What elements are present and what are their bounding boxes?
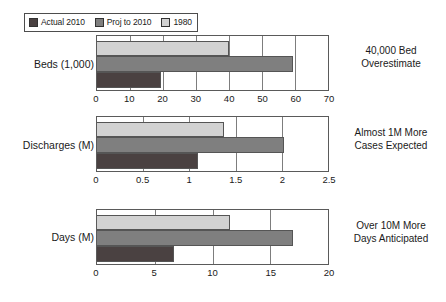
x-axis-tick-label: 2.5: [322, 174, 335, 185]
legend-label-1980: 1980: [173, 18, 192, 27]
annotation-discharges-line-1: Almost 1M More: [338, 126, 444, 139]
legend-swatch-proj-to-2010: [95, 18, 104, 27]
x-axis-ticks-days: 05101520: [96, 267, 329, 281]
bar-proj-to-2010-discharges: [97, 137, 284, 153]
legend-entry-actual-2010: Actual 2010: [29, 18, 85, 27]
bar-proj-to-2010-beds: [97, 56, 293, 72]
annotation-beds: 40,000 Bed Overestimate: [338, 44, 444, 70]
x-axis-tick-label: 30: [191, 93, 202, 104]
chart-panel-days: Days (M) 05101520 Over 10M More Days Ant…: [0, 205, 446, 285]
legend-entry-1980: 1980: [161, 18, 192, 27]
x-axis-tick-label: 0: [93, 267, 98, 278]
x-axis-tick-label: 0.5: [136, 174, 149, 185]
annotation-days: Over 10M More Days Anticipated: [338, 219, 444, 245]
x-axis-tick-label: 40: [224, 93, 235, 104]
x-axis-tick-label: 10: [124, 93, 135, 104]
x-axis-tick-label: 20: [324, 267, 335, 278]
legend-swatch-1980: [161, 18, 170, 27]
chart-ylabel-days: Days (M): [8, 231, 94, 243]
x-axis-tick-label: 50: [257, 93, 268, 104]
x-axis-tick-label: 0: [93, 174, 98, 185]
annotation-beds-line-1: 40,000 Bed: [338, 44, 444, 57]
x-axis-tick-label: 5: [152, 267, 157, 278]
annotation-discharges: Almost 1M More Cases Expected: [338, 126, 444, 152]
x-axis-tick-label: 70: [324, 93, 335, 104]
bar-1980-discharges: [97, 122, 224, 137]
bar-1980-beds: [97, 41, 229, 56]
x-axis-tick-label: 20: [157, 93, 168, 104]
legend-label-actual-2010: Actual 2010: [41, 18, 85, 27]
x-axis-tick-label: 2: [280, 174, 285, 185]
annotation-beds-line-2: Overestimate: [338, 57, 444, 70]
bar-actual-2010-beds: [97, 72, 161, 88]
x-axis-tick-label: 15: [265, 267, 276, 278]
x-axis-tick-label: 1: [187, 174, 192, 185]
bar-actual-2010-discharges: [97, 153, 198, 169]
bar-proj-to-2010-days: [97, 230, 293, 246]
chart-panel-beds: Beds (1,000) 010203040506070 40,000 Bed …: [0, 30, 446, 108]
plot-area-days: [96, 209, 329, 265]
annotation-days-line-2: Days Anticipated: [338, 232, 444, 245]
bar-1980-days: [97, 215, 230, 230]
legend-swatch-actual-2010: [29, 18, 38, 27]
x-axis-tick-label: 10: [207, 267, 218, 278]
bar-group-discharges: [97, 117, 328, 171]
annotation-discharges-line-2: Cases Expected: [338, 139, 444, 152]
legend-entry-proj-to-2010: Proj to 2010: [95, 18, 152, 27]
plot-area-discharges: [96, 116, 329, 172]
x-axis-tick-label: 1.5: [229, 174, 242, 185]
chart-ylabel-discharges: Discharges (M): [8, 139, 94, 151]
bar-actual-2010-days: [97, 246, 174, 262]
legend-label-proj-to-2010: Proj to 2010: [107, 18, 152, 27]
chart-panel-discharges: Discharges (M) 00.511.522.5 Almost 1M Mo…: [0, 110, 446, 188]
annotation-days-line-1: Over 10M More: [338, 219, 444, 232]
x-axis-tick-label: 60: [290, 93, 301, 104]
x-axis-tick-label: 0: [93, 93, 98, 104]
bar-group-days: [97, 210, 328, 264]
chart-ylabel-beds: Beds (1,000): [8, 58, 94, 70]
plot-area-beds: [96, 35, 329, 91]
x-axis-ticks-beds: 010203040506070: [96, 93, 329, 107]
bar-group-beds: [97, 36, 328, 90]
x-axis-ticks-discharges: 00.511.522.5: [96, 174, 329, 188]
